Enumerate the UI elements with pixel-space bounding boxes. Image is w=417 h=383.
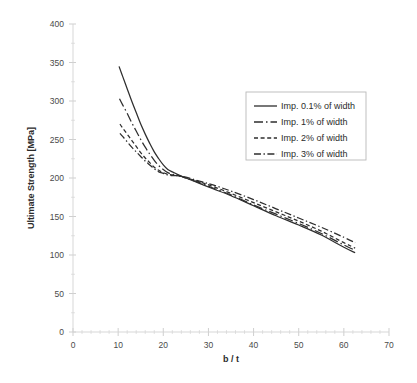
ultimate-strength-vs-bt-line-chart: 050100150200250300350400 010203040506070… (0, 0, 417, 383)
y-tick-label: 300 (50, 96, 64, 106)
y-tick-label: 350 (50, 58, 64, 68)
y-tick-label: 0 (59, 327, 64, 337)
legend-label-1: Imp. 1% of width (281, 117, 348, 127)
chart-figure: 050100150200250300350400 010203040506070… (0, 0, 417, 383)
x-tick-label: 10 (113, 340, 123, 350)
y-tick-label: 200 (50, 173, 64, 183)
x-axis-title: b / t (223, 354, 239, 364)
x-tick-label: 30 (204, 340, 214, 350)
x-tick-label: 70 (384, 340, 394, 350)
y-tick-label: 400 (50, 19, 64, 29)
x-tick-label: 50 (294, 340, 304, 350)
legend-label-2: Imp. 2% of width (281, 133, 348, 143)
x-tick-label: 0 (71, 340, 76, 350)
legend-label-3: Imp. 3% of width (281, 149, 348, 159)
legend-label-0: Imp. 0.1% of width (281, 101, 355, 111)
y-tick-label: 100 (50, 250, 64, 260)
x-tick-label: 20 (159, 340, 169, 350)
y-tick-label: 250 (50, 135, 64, 145)
x-tick-label: 40 (249, 340, 259, 350)
y-tick-label: 150 (50, 212, 64, 222)
y-tick-label: 50 (55, 289, 65, 299)
y-axis-title: Ultimate Strength [MPa] (26, 127, 36, 229)
x-tick-label: 60 (339, 340, 349, 350)
legend: Imp. 0.1% of widthImp. 1% of widthImp. 2… (246, 92, 366, 160)
